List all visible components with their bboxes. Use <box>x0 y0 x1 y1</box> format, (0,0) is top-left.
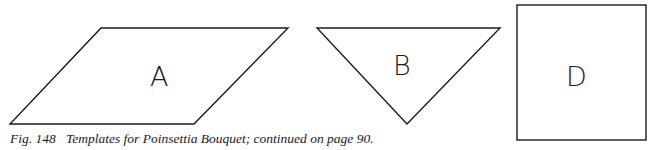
template-d: D <box>517 5 646 140</box>
template-label-d: D <box>566 61 587 92</box>
template-b: B <box>317 28 500 124</box>
figure-caption: Fig. 148 Templates for Poinsettia Bouque… <box>10 131 374 147</box>
template-diagram: A B D <box>0 0 653 150</box>
parallelogram-shape <box>10 28 288 124</box>
figure-caption-text: Templates for Poinsettia Bouquet; contin… <box>66 131 374 146</box>
template-a: A <box>10 28 288 124</box>
template-label-a: A <box>150 61 168 92</box>
figure-number: Fig. 148 <box>10 131 56 146</box>
template-label-b: B <box>393 50 411 81</box>
